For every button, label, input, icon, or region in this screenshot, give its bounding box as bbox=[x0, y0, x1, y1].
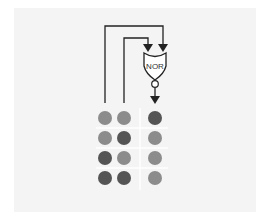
inverter-bubble bbox=[152, 81, 159, 88]
output-dot bbox=[148, 171, 162, 185]
table-row bbox=[98, 151, 162, 165]
wire-input-b bbox=[124, 38, 148, 103]
arrow-down-icon bbox=[150, 96, 160, 104]
input-a-dot bbox=[98, 111, 112, 125]
input-a-dot bbox=[98, 171, 112, 185]
arrow-down-icon bbox=[143, 44, 153, 52]
gate-label: NOR bbox=[146, 62, 164, 71]
output-dot bbox=[148, 151, 162, 165]
output-dot bbox=[148, 131, 162, 145]
nor-gate-diagram: NOR bbox=[0, 0, 269, 224]
table-row bbox=[98, 131, 162, 145]
input-b-dot bbox=[117, 131, 131, 145]
output-dot bbox=[148, 111, 162, 125]
table-row bbox=[98, 171, 162, 185]
arrow-down-icon bbox=[158, 44, 168, 52]
input-a-dot bbox=[98, 131, 112, 145]
input-b-dot bbox=[117, 171, 131, 185]
input-b-dot bbox=[117, 111, 131, 125]
table-row bbox=[98, 111, 162, 125]
input-b-dot bbox=[117, 151, 131, 165]
input-a-dot bbox=[98, 151, 112, 165]
